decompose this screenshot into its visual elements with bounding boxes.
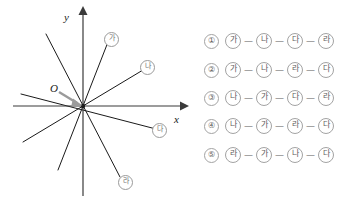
choice-separator: — xyxy=(241,94,256,103)
choice-item: 다 xyxy=(318,62,334,78)
choice-item: 다 xyxy=(318,147,334,163)
line-marker-da: 다 xyxy=(152,123,167,138)
choice-item: 가 xyxy=(256,90,272,106)
choice-separator: — xyxy=(303,151,318,160)
choice-item: 라 xyxy=(318,90,334,106)
choice-separator: — xyxy=(241,151,256,160)
figure-svg xyxy=(0,0,196,204)
choice-separator: — xyxy=(241,66,256,75)
choice-separator: — xyxy=(272,151,287,160)
answer-choice-3[interactable]: ③ 나 — 가 — 다 — 라 xyxy=(204,90,334,106)
page-root: y x O 가 나 다 라 ① 가 — 나 — 다 — 라 ② 가 — 나 — … xyxy=(0,0,348,204)
y-axis-arrowhead xyxy=(79,6,88,15)
choice-separator: — xyxy=(241,37,256,46)
answer-choice-5[interactable]: ⑤ 라 — 가 — 나 — 다 xyxy=(204,147,334,163)
choice-separator: — xyxy=(303,37,318,46)
choice-separator: — xyxy=(303,122,318,131)
axes xyxy=(13,15,180,196)
choice-item: 나 xyxy=(225,118,241,134)
line-marker-ga: 가 xyxy=(104,32,119,47)
answer-choice-1[interactable]: ① 가 — 나 — 다 — 라 xyxy=(204,33,334,49)
answer-choice-2[interactable]: ② 가 — 나 — 라 — 다 xyxy=(204,62,334,78)
choice-item: 나 xyxy=(256,62,272,78)
choice-item: 나 xyxy=(256,33,272,49)
choice-separator: — xyxy=(272,122,287,131)
line-da xyxy=(21,94,156,129)
choice-item: 라 xyxy=(287,118,303,134)
choice-item: 라 xyxy=(318,33,334,49)
coordinate-figure: y x O 가 나 다 라 xyxy=(0,0,196,204)
origin-label: O xyxy=(50,83,58,94)
choice-item: 다 xyxy=(287,33,303,49)
choice-item: 가 xyxy=(256,147,272,163)
x-axis-arrowhead xyxy=(180,102,189,111)
choice-separator: — xyxy=(272,94,287,103)
choice-number: ③ xyxy=(204,91,219,106)
origin-point xyxy=(81,104,85,108)
choice-item: 가 xyxy=(225,62,241,78)
choice-item: 나 xyxy=(287,147,303,163)
choice-item: 다 xyxy=(287,90,303,106)
choice-item: 라 xyxy=(225,147,241,163)
choice-item: 가 xyxy=(225,33,241,49)
choice-number: ② xyxy=(204,63,219,78)
y-axis-label: y xyxy=(64,12,69,23)
choice-number: ① xyxy=(204,34,219,49)
choice-number: ④ xyxy=(204,119,219,134)
choice-item: 가 xyxy=(256,118,272,134)
line-marker-ra: 라 xyxy=(118,175,133,190)
line-marker-na: 나 xyxy=(140,60,155,75)
choice-separator: — xyxy=(303,94,318,103)
choice-number: ⑤ xyxy=(204,148,219,163)
choice-separator: — xyxy=(272,37,287,46)
choice-item: 다 xyxy=(318,118,334,134)
answer-choices: ① 가 — 나 — 다 — 라 ② 가 — 나 — 라 — 다 ③ 나 — 가 … xyxy=(196,0,348,204)
choice-item: 나 xyxy=(225,90,241,106)
choice-separator: — xyxy=(272,66,287,75)
choice-separator: — xyxy=(241,122,256,131)
x-axis-label: x xyxy=(174,114,179,125)
answer-choice-4[interactable]: ④ 나 — 가 — 라 — 다 xyxy=(204,118,334,134)
choice-item: 라 xyxy=(287,62,303,78)
choice-separator: — xyxy=(303,66,318,75)
